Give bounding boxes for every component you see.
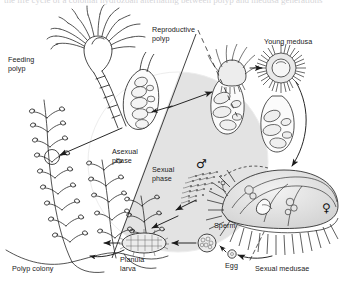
- arrow-egg-to-zygote: [220, 246, 226, 252]
- label-sperm: Sperm: [214, 222, 235, 231]
- label-sexual-phase: Sexual phase: [152, 166, 174, 183]
- label-polyp-colony: Polyp colony: [12, 265, 53, 274]
- zygote-drawing: [198, 234, 216, 252]
- label-feeding-polyp: Feeding polyp: [8, 56, 34, 73]
- hydrozoan-life-cycle-figure: the life cycle of a colonial hydrozoan a…: [0, 0, 349, 284]
- label-planula-larva: Planula larva: [120, 256, 144, 273]
- label-egg: Egg: [225, 262, 238, 271]
- label-sexual-medusae: Sexual medusae: [255, 265, 309, 274]
- young-medusa-drawing: [256, 43, 306, 93]
- dashed-phase-hint-lower: [250, 232, 264, 260]
- egg-drawing: [228, 250, 236, 258]
- female-symbol: ♀: [322, 202, 331, 214]
- arrow-medusa-to-egg: [238, 255, 272, 258]
- reproductive-polyp-drawing: [123, 52, 159, 129]
- male-symbol: ♂: [196, 158, 207, 170]
- label-young-medusa: Young medusa: [264, 38, 312, 47]
- sexual-medusa-drawing: [206, 170, 338, 255]
- label-reproductive-polyp: Reproductive polyp: [152, 26, 195, 43]
- label-asexual-phase: Asexual phase: [112, 148, 138, 165]
